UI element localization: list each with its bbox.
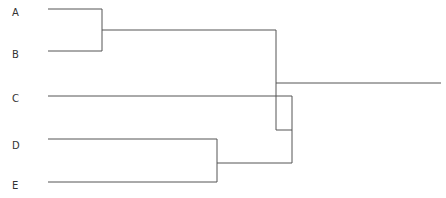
- dendrogram-canvas: A B C D E: [0, 0, 446, 198]
- cluster-ab: [48, 9, 102, 51]
- leaf-c-branch: [48, 96, 292, 163]
- cluster-de: [48, 139, 217, 182]
- cluster-join: [276, 30, 292, 130]
- dendrogram-lines: [0, 0, 446, 198]
